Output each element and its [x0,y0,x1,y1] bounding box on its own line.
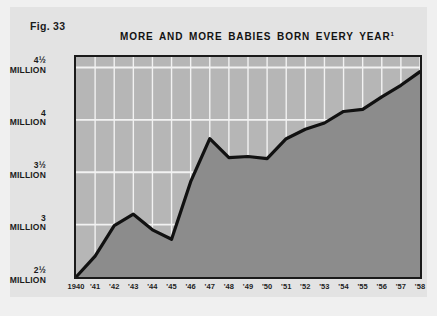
y-axis-tick-2: 3½MILLION [0,161,46,180]
y-axis-tick-unit: MILLION [0,276,46,286]
plot-area [74,55,422,279]
x-axis-tick-9: '49 [243,282,253,291]
x-axis-tick-11: '51 [281,282,291,291]
x-axis-tick-13: '53 [319,282,329,291]
chart-title-footnote-marker: 1 [391,31,394,37]
x-axis-tick-6: '46 [185,282,195,291]
x-axis-tick-15: '55 [357,282,367,291]
x-axis-tick-8: '48 [224,282,234,291]
x-axis-tick-10: '50 [262,282,272,291]
x-axis-tick-17: '57 [396,282,406,291]
figure-panel: Fig. 33 MORE AND MORE BABIES BORN EVERY … [10,7,427,297]
x-axis-tick-7: '47 [205,282,215,291]
x-axis-tick-5: '45 [166,282,176,291]
x-axis-tick-18: '58 [415,282,425,291]
y-axis-tick-3: 4MILLION [0,109,46,128]
figure-label: Fig. 33 [30,20,65,32]
y-axis-tick-unit: MILLION [0,223,46,233]
chart-title-text: MORE AND MORE BABIES BORN EVERY YEAR [120,31,391,42]
x-axis-tick-0: 1940 [67,282,84,291]
chart-title: MORE AND MORE BABIES BORN EVERY YEAR1 [120,31,400,42]
area-chart-svg [76,57,420,277]
y-axis-tick-1: 3MILLION [0,214,46,233]
y-axis-tick-0: 2½MILLION [0,266,46,285]
x-axis-tick-2: '42 [109,282,119,291]
x-axis-tick-12: '52 [300,282,310,291]
y-axis-tick-unit: MILLION [0,171,46,181]
plot-inner [76,57,420,277]
y-axis-tick-4: 4½MILLION [0,56,46,75]
x-axis-tick-14: '54 [338,282,348,291]
x-axis-tick-16: '56 [377,282,387,291]
x-axis-tick-3: '43 [128,282,138,291]
x-axis-labels: 1940'41'42'43'44'45'46'47'48'49'50'51'52… [74,282,422,296]
x-axis-tick-4: '44 [147,282,157,291]
x-axis-tick-1: '41 [90,282,100,291]
y-axis-tick-unit: MILLION [0,66,46,76]
y-axis-tick-unit: MILLION [0,118,46,128]
